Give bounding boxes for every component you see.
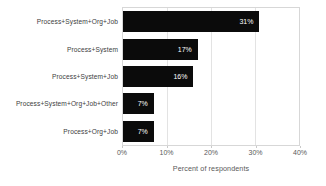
bar-chart: Process+System+Org+Job31%Process+System1… bbox=[0, 0, 326, 186]
x-tick-mark bbox=[211, 146, 212, 148]
bar-row: Process+System17% bbox=[123, 35, 299, 62]
bar: 17% bbox=[123, 39, 198, 60]
x-tick-label: 40% bbox=[293, 149, 307, 156]
x-tick-label: 20% bbox=[204, 149, 218, 156]
bar-value-label: 7% bbox=[138, 128, 154, 135]
bar-rows: Process+System+Org+Job31%Process+System1… bbox=[123, 8, 299, 145]
x-tick-mark bbox=[256, 146, 257, 148]
bar-row: Process+Org+Job7% bbox=[123, 118, 299, 145]
x-tick-label: 10% bbox=[159, 149, 173, 156]
category-label: Process+System bbox=[67, 46, 118, 53]
x-axis: 0%10%20%30%40% bbox=[122, 146, 300, 158]
bar-value-label: 16% bbox=[173, 73, 193, 80]
bar: 16% bbox=[123, 66, 193, 87]
x-tick-mark bbox=[300, 146, 301, 148]
x-axis-title: Percent of respondents bbox=[122, 164, 300, 173]
bar: 7% bbox=[123, 121, 154, 142]
bar-value-label: 17% bbox=[178, 46, 198, 53]
bar-value-label: 7% bbox=[138, 100, 154, 107]
x-tick-label: 0% bbox=[117, 149, 127, 156]
bar-row: Process+System+Job16% bbox=[123, 63, 299, 90]
bar: 7% bbox=[123, 93, 154, 114]
bar-row: Process+System+Org+Job+Other7% bbox=[123, 90, 299, 117]
bar-value-label: 31% bbox=[239, 18, 259, 25]
category-label: Process+System+Org+Job+Other bbox=[16, 100, 118, 107]
x-tick-mark bbox=[122, 146, 123, 148]
category-label: Process+System+Job bbox=[52, 73, 118, 80]
x-tick-mark bbox=[167, 146, 168, 148]
x-tick-label: 30% bbox=[248, 149, 262, 156]
plot-area: Process+System+Org+Job31%Process+System1… bbox=[122, 7, 300, 146]
category-label: Process+System+Org+Job bbox=[37, 18, 118, 25]
category-label: Process+Org+Job bbox=[63, 128, 118, 135]
bar-row: Process+System+Org+Job31% bbox=[123, 8, 299, 35]
bar: 31% bbox=[123, 11, 259, 32]
